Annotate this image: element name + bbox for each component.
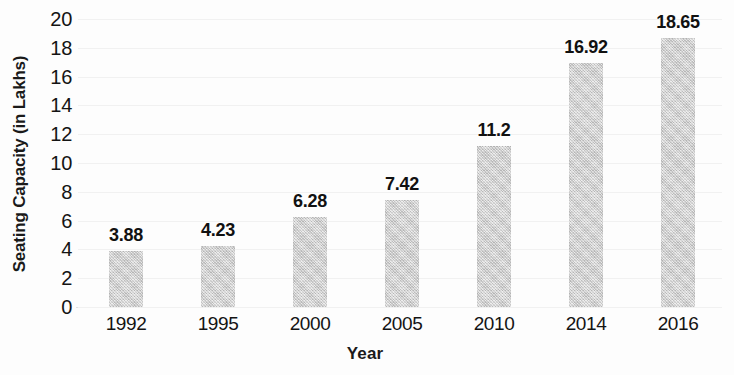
bar <box>569 63 603 307</box>
gridline <box>78 307 722 308</box>
x-axis-tick-label: 2000 <box>265 313 355 335</box>
gridline <box>78 163 722 164</box>
y-axis-tick-label: 0 <box>0 297 72 317</box>
y-axis-tick-label: 8 <box>0 182 72 202</box>
bar-chart: Seating Capacity (in Lakhs) 201816141210… <box>0 0 734 375</box>
gridline <box>78 134 722 135</box>
bar-value-label: 4.23 <box>173 220 263 241</box>
gridline <box>78 77 722 78</box>
bar-value-label: 18.65 <box>633 12 723 33</box>
bar-value-label: 3.88 <box>81 225 171 246</box>
y-axis-tick-label: 20 <box>0 9 72 29</box>
bar-value-label: 16.92 <box>541 37 631 58</box>
y-axis-tick-label: 12 <box>0 124 72 144</box>
x-axis-tick-label: 2014 <box>541 313 631 335</box>
bar <box>385 200 419 307</box>
x-axis-title: Year <box>0 344 734 364</box>
bar-value-label: 7.42 <box>357 174 447 195</box>
x-axis-tick-label: 1995 <box>173 313 263 335</box>
y-axis-tick-label: 2 <box>0 268 72 288</box>
x-axis-title-text: Year <box>347 344 384 364</box>
x-axis-tick-label: 2016 <box>633 313 723 335</box>
y-axis-tick-label: 14 <box>0 95 72 115</box>
x-axis-tick-label: 2010 <box>449 313 539 335</box>
y-axis-tick-labels: 20181614121086420 <box>0 0 72 375</box>
bar <box>201 246 235 307</box>
bar-value-label: 11.2 <box>449 120 539 141</box>
bar-value-label: 6.28 <box>265 191 355 212</box>
y-axis-tick-label: 16 <box>0 67 72 87</box>
x-axis-tick-label: 2005 <box>357 313 447 335</box>
gridline <box>78 105 722 106</box>
bar <box>477 146 511 307</box>
gridline <box>78 19 722 20</box>
y-axis-tick-label: 18 <box>0 38 72 58</box>
plot-area <box>78 19 722 307</box>
bar <box>109 251 143 307</box>
y-axis-tick-label: 6 <box>0 211 72 231</box>
x-axis-tick-label: 1992 <box>81 313 171 335</box>
y-axis-tick-label: 4 <box>0 239 72 259</box>
bar <box>661 38 695 307</box>
bar <box>293 217 327 307</box>
y-axis-tick-label: 10 <box>0 153 72 173</box>
